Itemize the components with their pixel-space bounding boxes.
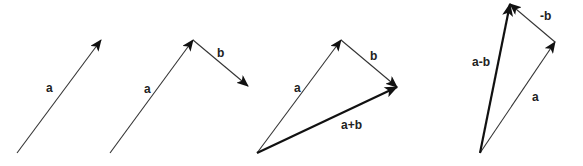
panel-head-to-tail: a b [110, 40, 248, 153]
vector-a-arrow [17, 40, 101, 153]
panel-difference: a -b a-b [472, 4, 555, 153]
label-a: a [144, 82, 151, 96]
vector-a-arrow [110, 40, 193, 153]
label-a: a [532, 90, 539, 104]
label-a: a [294, 81, 301, 95]
label-b: b [217, 46, 224, 60]
vector-a-arrow [257, 40, 341, 153]
label-b: b [370, 49, 377, 63]
label-sum: a+b [341, 118, 362, 132]
panel-sum: a b a+b [257, 40, 397, 153]
label-neg-b: -b [540, 9, 551, 23]
label-diff: a-b [472, 55, 490, 69]
vector-diagram: a a b a b a+b a -b a-b [0, 0, 583, 166]
vector-b-arrow [341, 40, 397, 87]
label-a: a [46, 81, 53, 95]
panel-vector-a: a [17, 40, 101, 153]
vector-sum-arrow [257, 87, 397, 153]
